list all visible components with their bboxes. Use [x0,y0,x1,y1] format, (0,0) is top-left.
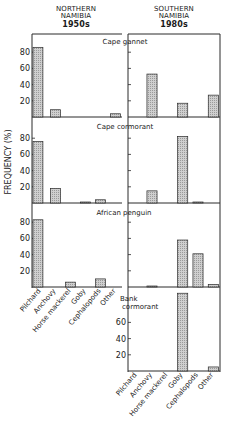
svg-text:20: 20 [20,97,30,106]
diet-frequency-chart: 204060802040608020406080204060Cape ganne… [0,0,225,432]
svg-text:FREQUENCY (%): FREQUENCY (%) [4,129,13,194]
svg-text:60: 60 [116,318,126,327]
svg-text:40: 40 [20,251,30,260]
svg-text:African penguin: African penguin [96,209,151,217]
svg-text:Other: Other [196,371,215,391]
svg-text:Cape cormorant: Cape cormorant [97,123,154,131]
svg-text:Cape gannet: Cape gannet [103,38,148,46]
svg-text:80: 80 [20,134,30,143]
svg-text:40: 40 [20,167,30,176]
svg-text:40: 40 [116,335,126,344]
svg-text:60: 60 [20,64,30,73]
svg-text:60: 60 [20,150,30,159]
svg-text:20: 20 [20,267,30,276]
svg-text:20: 20 [116,351,126,360]
svg-text:80: 80 [20,218,30,227]
svg-text:60: 60 [20,234,30,243]
svg-text:80: 80 [20,48,30,57]
svg-text:Other: Other [99,287,118,307]
svg-text:40: 40 [20,81,30,90]
svg-text:cormorant: cormorant [122,303,159,311]
svg-text:20: 20 [20,183,30,192]
svg-text:Bank: Bank [120,295,139,303]
